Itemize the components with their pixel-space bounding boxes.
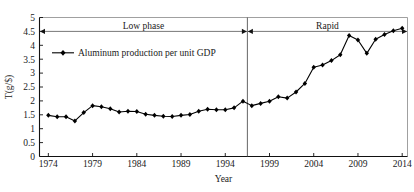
legend-entry-label: Aluminum production per unit GDP [78,48,216,58]
y-tick-label: 1.5 [23,110,35,120]
data-point-marker [267,99,271,104]
data-point-marker [152,113,156,118]
y-tick-label: 4 [30,41,35,51]
data-point-marker [99,104,103,109]
data-point-marker [197,109,201,114]
data-point-marker [179,113,183,118]
low-phase-label: Low phase [123,21,164,31]
y-tick-label: 5 [30,13,35,23]
data-point-marker [126,109,130,114]
data-point-marker [285,96,289,101]
chart-container: 00.511.522.533.544.551974197919841989199… [0,0,414,192]
x-tick-label: 2009 [348,159,367,169]
legend-marker-icon [60,50,65,56]
data-point-marker [223,107,227,112]
x-tick-label: 1979 [83,159,102,169]
y-tick-label: 3 [30,68,35,78]
data-point-marker [391,28,395,33]
data-point-marker [338,52,342,57]
data-point-marker [117,110,121,115]
data-point-marker [170,114,174,119]
low-phase-arrow-left-icon [40,29,45,34]
data-point-marker [250,103,254,108]
data-point-marker [161,114,165,119]
data-point-marker [347,33,351,38]
y-tick-label: 0.5 [23,138,35,148]
x-tick-label: 1974 [39,159,58,169]
x-tick-label: 2004 [304,159,323,169]
data-point-marker [143,112,147,117]
y-tick-label: 4.5 [23,27,35,37]
x-tick-label: 1989 [172,159,191,169]
data-point-marker [276,94,280,99]
data-point-marker [205,107,209,112]
data-point-marker [329,58,333,63]
data-point-marker [108,106,112,111]
rapid-phase-label: Rapid [316,21,339,31]
data-point-marker [55,114,59,119]
y-tick-label: 0 [30,152,35,162]
y-axis-title: T(g/$) [4,75,15,99]
y-tick-label: 2.5 [23,82,35,92]
x-tick-label: 1999 [260,159,279,169]
data-point-marker [214,107,218,112]
x-axis-title: Year [215,174,233,184]
data-point-marker [258,101,262,106]
data-point-marker [46,113,50,118]
data-point-marker [320,63,324,68]
y-tick-label: 2 [30,96,35,106]
y-tick-label: 1 [30,124,35,134]
data-point-marker [382,32,386,37]
line-chart: 00.511.522.533.544.551974197919841989199… [0,0,414,192]
rapid-phase-arrow-left-icon [248,29,253,34]
data-point-marker [188,112,192,117]
x-tick-label: 1994 [216,159,235,169]
y-tick-label: 3.5 [23,55,35,65]
low-phase-arrow-right-icon [242,29,247,34]
data-point-marker [64,114,68,119]
x-tick-label: 1984 [127,159,146,169]
x-tick-label: 2014 [393,159,412,169]
data-point-marker [135,109,139,114]
